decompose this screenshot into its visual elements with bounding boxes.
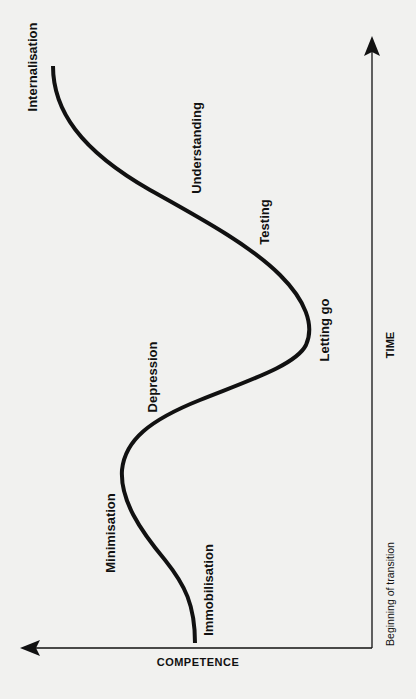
stage-label-minimisation: Minimisation <box>103 493 118 572</box>
beginning-of-transition-label: Beginning of transition <box>384 542 396 646</box>
stage-label-depression: Depression <box>145 342 160 413</box>
stage-label-testing: Testing <box>257 199 272 244</box>
stage-label-understanding: Understanding <box>189 102 204 194</box>
time-axis-label: TIME <box>384 332 396 358</box>
stage-label-internalisation: Internalisation <box>25 23 40 112</box>
stage-label-immobilisation: Immobilisation <box>201 544 216 636</box>
competence-axis-label: COMPETENCE <box>157 656 240 668</box>
transition-curve <box>53 66 309 643</box>
stage-label-letting-go: Letting go <box>317 299 332 362</box>
